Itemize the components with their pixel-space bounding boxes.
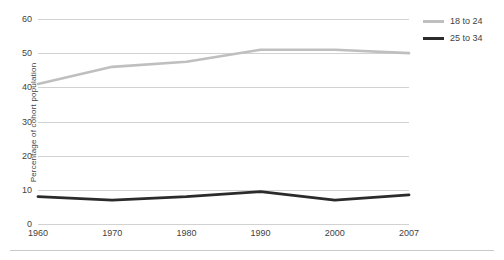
- line-chart: Percentage of cohort population 01020304…: [0, 0, 504, 260]
- series-layer: [38, 19, 409, 224]
- y-axis-tick-label: 30: [22, 117, 32, 127]
- legend-swatch-icon: [423, 20, 444, 23]
- plot-area: 0102030405060: [38, 19, 409, 224]
- x-axis-tick-label: 1970: [102, 228, 122, 238]
- x-axis-tick-labels: 196019701980199020002007: [38, 228, 409, 244]
- bottom-divider: [10, 250, 494, 251]
- legend-item[interactable]: 18 to 24: [423, 14, 501, 28]
- legend-item[interactable]: 25 to 34: [423, 31, 501, 45]
- y-axis-tick-label: 10: [22, 185, 32, 195]
- y-axis-tick-label: 60: [22, 14, 32, 24]
- y-axis-tick-label: 20: [22, 151, 32, 161]
- series-line-25-to-34: [38, 192, 409, 201]
- gridline: [38, 224, 409, 225]
- series-line-18-to-24: [38, 50, 409, 84]
- x-axis-tick-label: 1980: [176, 228, 196, 238]
- legend-swatch-icon: [423, 37, 444, 40]
- chart-legend: 18 to 2425 to 34: [423, 14, 501, 48]
- legend-label: 25 to 34: [450, 33, 483, 43]
- x-axis-tick-label: 2000: [325, 228, 345, 238]
- x-axis-tick-label: 1960: [28, 228, 48, 238]
- y-axis-tick-label: 40: [22, 82, 32, 92]
- legend-label: 18 to 24: [450, 16, 483, 26]
- y-axis-tick-label: 50: [22, 48, 32, 58]
- x-axis-tick-label: 1990: [251, 228, 271, 238]
- x-axis-tick-label: 2007: [399, 228, 419, 238]
